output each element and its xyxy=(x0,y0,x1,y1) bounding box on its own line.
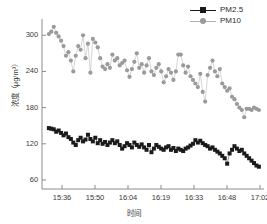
y-tick-label: 240 xyxy=(14,66,38,75)
data-point xyxy=(91,139,95,143)
data-point xyxy=(108,66,112,70)
data-point xyxy=(103,67,107,71)
data-point xyxy=(96,45,100,49)
data-point xyxy=(147,56,151,60)
data-point xyxy=(220,81,224,85)
data-point xyxy=(149,69,153,73)
data-point xyxy=(213,69,217,73)
data-point xyxy=(130,145,134,149)
data-point xyxy=(210,58,214,62)
data-point xyxy=(242,115,246,119)
legend-marker-square-icon xyxy=(200,7,206,13)
data-point xyxy=(166,67,170,71)
y-tick-label: 180 xyxy=(14,103,38,112)
data-point xyxy=(228,151,232,155)
data-point xyxy=(52,25,56,29)
data-point xyxy=(164,74,168,78)
legend-item-pm25: PM2.5 xyxy=(188,5,264,16)
data-point xyxy=(69,58,73,62)
x-tick-label: 15:36 xyxy=(47,193,77,202)
data-point xyxy=(215,74,219,78)
data-point xyxy=(235,102,239,106)
data-point xyxy=(110,52,114,56)
data-point xyxy=(203,99,207,103)
data-point xyxy=(171,78,175,82)
x-tick-label: 16:19 xyxy=(146,193,176,202)
data-point xyxy=(79,48,83,52)
data-point xyxy=(196,85,200,89)
data-point xyxy=(206,73,210,77)
data-point xyxy=(201,90,205,94)
data-point xyxy=(61,44,65,48)
data-point xyxy=(98,56,102,60)
data-point xyxy=(157,62,161,66)
data-point xyxy=(223,156,227,160)
data-point xyxy=(64,132,68,136)
data-point xyxy=(98,138,102,142)
x-tick-label: 16:48 xyxy=(212,193,242,202)
data-point xyxy=(122,58,126,62)
data-point xyxy=(115,56,119,60)
data-point xyxy=(144,63,148,67)
data-point xyxy=(125,68,129,72)
data-point xyxy=(69,137,73,141)
data-point xyxy=(64,54,68,58)
chart-legend: PM2.5 PM10 xyxy=(188,3,264,27)
chart-plot-area xyxy=(0,0,267,224)
data-point xyxy=(179,52,183,56)
data-point xyxy=(145,148,149,152)
series-PM10 xyxy=(47,25,261,120)
data-point xyxy=(83,56,87,60)
data-point xyxy=(93,40,97,44)
data-point xyxy=(188,74,192,78)
data-point xyxy=(76,44,80,48)
x-tick-label: 15:50 xyxy=(80,193,110,202)
data-point xyxy=(232,97,236,101)
data-point xyxy=(135,51,139,55)
data-point xyxy=(181,63,185,67)
data-point xyxy=(167,144,171,148)
y-tick-label: 300 xyxy=(14,30,38,39)
data-point xyxy=(88,71,92,75)
data-point xyxy=(154,66,158,70)
data-point xyxy=(218,67,222,71)
data-point xyxy=(227,86,231,90)
data-point xyxy=(225,162,229,166)
data-point xyxy=(91,37,95,41)
data-point xyxy=(127,75,131,79)
data-point xyxy=(223,85,227,89)
data-point xyxy=(198,72,202,76)
data-point xyxy=(140,62,144,66)
y-tick-label: 120 xyxy=(14,139,38,148)
x-tick-label: 16:04 xyxy=(113,193,143,202)
data-point xyxy=(147,143,151,147)
legend-label-pm25: PM2.5 xyxy=(220,5,243,14)
x-axis-label: 时间 xyxy=(0,207,267,218)
data-point xyxy=(54,31,58,35)
data-point xyxy=(191,78,195,82)
data-point xyxy=(132,60,136,64)
data-point xyxy=(86,42,90,46)
data-point xyxy=(257,108,261,112)
data-point xyxy=(184,71,188,75)
data-point xyxy=(162,80,166,84)
data-point xyxy=(257,165,261,169)
data-point xyxy=(159,69,163,73)
data-point xyxy=(174,69,178,73)
data-point xyxy=(230,148,234,152)
data-point xyxy=(152,147,156,151)
data-point xyxy=(59,39,63,43)
legend-label-pm10: PM10 xyxy=(220,16,241,25)
data-point xyxy=(79,136,83,140)
data-point xyxy=(66,50,70,54)
data-point xyxy=(74,54,78,58)
data-point xyxy=(105,62,109,66)
data-point xyxy=(49,30,53,34)
data-point xyxy=(137,66,141,70)
data-point xyxy=(93,136,97,140)
data-point xyxy=(86,133,90,137)
data-point xyxy=(186,65,190,69)
data-point xyxy=(193,81,197,85)
series-line xyxy=(49,27,259,117)
legend-marker-circle-icon xyxy=(200,18,206,24)
